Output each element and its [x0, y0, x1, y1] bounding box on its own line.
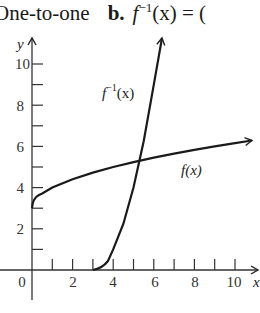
x-tick-label-6: 6 [151, 274, 159, 290]
x-tick-label-4: 4 [109, 274, 117, 290]
y-tick-label-4: 4 [17, 180, 25, 196]
function-graph: 2 4 6 8 10 y 0 2 4 6 8 10 x f−1(x) f(x) [0, 0, 260, 313]
y-axis: 2 4 6 8 10 y [15, 36, 43, 300]
x-tick-label-2: 2 [69, 274, 77, 290]
x-axis: 0 2 4 6 8 10 x [0, 259, 260, 290]
f-inverse-label: f−1(x) [102, 82, 134, 102]
y-tick-label-6: 6 [17, 139, 25, 155]
x-tick-label-8: 8 [191, 274, 199, 290]
y-axis-label: y [15, 36, 24, 52]
y-tick-label-10: 10 [15, 56, 30, 72]
x-tick-label-0: 0 [18, 274, 26, 290]
y-tick-label-8: 8 [17, 98, 25, 114]
f-label: f(x) [181, 162, 202, 179]
x-axis-label: x [252, 274, 260, 290]
y-tick-label-2: 2 [17, 221, 25, 237]
f-inverse-curve [93, 38, 162, 270]
x-tick-label-10: 10 [227, 274, 242, 290]
